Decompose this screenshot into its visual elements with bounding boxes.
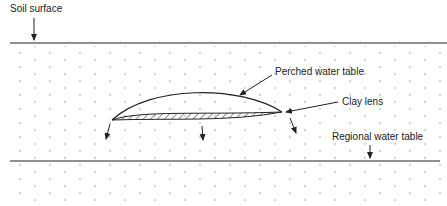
perched-water-table-label: Perched water table — [275, 66, 364, 77]
clay-lens-label: Clay lens — [342, 96, 383, 107]
soil-surface-label: Soil surface — [10, 3, 62, 14]
regional-water-table-label: Regional water table — [332, 131, 423, 142]
perched-water-table-diagram: Soil surface Perched water table Clay le… — [0, 0, 447, 206]
soil-dots — [10, 46, 447, 206]
